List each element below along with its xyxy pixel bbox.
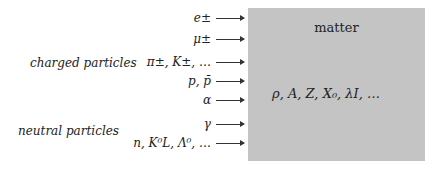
arrow-right-icon <box>216 100 244 101</box>
particle-label: μ± <box>193 32 211 46</box>
arrow-right-icon <box>216 39 244 40</box>
particle-row-alpha: α <box>203 93 244 107</box>
particle-label: e± <box>194 11 211 25</box>
particle-row-photon: γ <box>204 117 244 131</box>
arrow-right-icon <box>216 18 244 19</box>
arrow-right-icon <box>216 81 244 82</box>
particle-label: π±, K±, … <box>147 55 211 69</box>
particle-label: n, K⁰L, Λ⁰, … <box>133 136 211 150</box>
particle-label: p, p̄ <box>188 74 211 88</box>
matter-properties: ρ, A, Z, X₀, λI, … <box>272 86 380 101</box>
matter-title: matter <box>248 20 425 35</box>
particle-label: α <box>203 93 211 107</box>
particle-row-muon: μ± <box>193 32 244 46</box>
arrow-right-icon <box>216 62 244 63</box>
particle-row-pion-kaon: π±, K±, … <box>147 55 244 69</box>
matter-box: matter ρ, A, Z, X₀, λI, … <box>248 8 425 161</box>
charged-particles-label: charged particles <box>30 56 137 70</box>
particle-label: γ <box>204 117 211 131</box>
particle-row-neutral-hadrons: n, K⁰L, Λ⁰, … <box>133 136 244 150</box>
particle-row-proton: p, p̄ <box>188 74 244 88</box>
particle-row-electron: e± <box>194 11 244 25</box>
neutral-particles-label: neutral particles <box>18 124 119 138</box>
arrow-right-icon <box>216 124 244 125</box>
arrow-right-icon <box>216 143 244 144</box>
